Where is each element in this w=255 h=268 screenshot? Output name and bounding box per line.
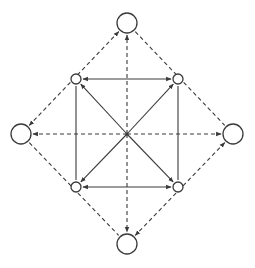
node-outer-bottom [117, 234, 137, 254]
node-outer-left [11, 124, 31, 144]
node-outer-right [223, 124, 243, 144]
hub-point [125, 132, 128, 135]
edge-hub-to-inner-top-left [81, 84, 127, 134]
node-inner-top-right [173, 74, 183, 84]
edge-hub-to-inner-bottom-left [81, 134, 127, 182]
node-inner-top-left [71, 74, 81, 84]
node-inner-bottom-left [71, 182, 81, 192]
network-diagram [0, 0, 255, 268]
node-outer-top [117, 13, 137, 33]
node-inner-bottom-right [173, 182, 183, 192]
edge-hub-to-inner-top-right [127, 84, 173, 134]
edge-hub-to-inner-bottom-right [127, 134, 173, 182]
